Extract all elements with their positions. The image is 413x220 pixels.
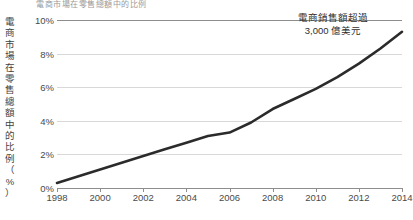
- y-tick-label-10%: 10%: [14, 15, 54, 26]
- x-tick-label-2008: 2008: [262, 192, 283, 203]
- y-tick-label-2%: 2%: [14, 149, 54, 160]
- x-tick-label-2004: 2004: [176, 192, 197, 203]
- chart-title-cropped: 電商市場在零售總額中的比例: [36, 0, 266, 9]
- y-tick-label-4%: 4%: [14, 115, 54, 126]
- y-axis-tick-labels: 0%2%4%6%8%10%: [10, 20, 54, 188]
- y-tick-label-6%: 6%: [14, 82, 54, 93]
- x-tick-label-1998: 1998: [46, 192, 67, 203]
- x-tick-label-2006: 2006: [219, 192, 240, 203]
- x-tick-label-2002: 2002: [133, 192, 154, 203]
- y-tick-label-8%: 8%: [14, 48, 54, 59]
- plot-area: 199820002002200420062008201020122014: [57, 20, 402, 188]
- x-tick-label-2014: 2014: [391, 192, 412, 203]
- annotation-line-1: 電商銷售額超過: [283, 12, 383, 25]
- x-tick-label-2010: 2010: [305, 192, 326, 203]
- x-tick-label-2000: 2000: [90, 192, 111, 203]
- x-tick-label-2012: 2012: [348, 192, 369, 203]
- annotation-line-2: 3,000 億美元: [283, 25, 383, 38]
- series-line-ecommerce-share: [57, 20, 402, 188]
- callout-annotation: 電商銷售額超過 3,000 億美元: [283, 12, 383, 37]
